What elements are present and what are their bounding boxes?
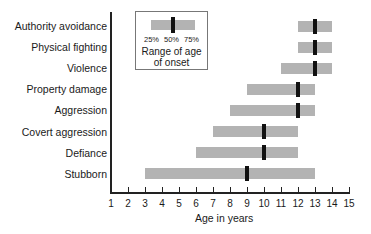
x-tick <box>196 187 197 193</box>
median-marker <box>296 82 300 97</box>
y-axis-line <box>110 12 112 193</box>
category-label: Covert aggression <box>22 126 107 138</box>
x-tick-label: 7 <box>205 198 221 209</box>
median-marker <box>245 166 249 181</box>
x-tick <box>128 187 129 193</box>
legend: 25% 50% 75% Range of age of onset <box>135 11 208 70</box>
median-marker <box>296 103 300 118</box>
x-tick-label: 2 <box>120 198 136 209</box>
median-marker <box>313 40 317 55</box>
range-bar <box>196 147 298 158</box>
x-tick-label: 11 <box>273 198 289 209</box>
x-tick-label: 10 <box>256 198 272 209</box>
x-tick <box>332 187 333 193</box>
category-label: Violence <box>67 62 107 74</box>
x-tick <box>230 187 231 193</box>
legend-median-marker <box>171 17 175 33</box>
x-tick <box>145 187 146 193</box>
legend-p50: 50% <box>164 35 179 44</box>
x-tick-label: 3 <box>137 198 153 209</box>
range-bar <box>247 84 315 95</box>
range-bar <box>145 168 315 179</box>
x-tick-label: 5 <box>171 198 187 209</box>
median-marker <box>262 145 266 160</box>
legend-percentiles: 25% 50% 75% <box>136 35 207 44</box>
age-of-onset-chart: Authority avoidancePhysical fightingViol… <box>0 0 371 234</box>
x-tick-label: 4 <box>154 198 170 209</box>
x-tick <box>298 187 299 193</box>
x-tick <box>213 187 214 193</box>
x-tick <box>349 187 350 193</box>
x-tick <box>264 187 265 193</box>
category-label: Physical fighting <box>31 41 107 53</box>
category-label: Defiance <box>66 147 107 159</box>
median-marker <box>313 61 317 76</box>
x-tick <box>111 187 112 193</box>
range-bar <box>213 126 298 137</box>
x-axis-label: Age in years <box>195 212 253 224</box>
median-marker <box>313 19 317 34</box>
x-tick-label: 1 <box>103 198 119 209</box>
x-tick-label: 6 <box>188 198 204 209</box>
legend-caption: Range of age of onset <box>136 46 207 68</box>
x-tick-label: 14 <box>324 198 340 209</box>
x-tick <box>281 187 282 193</box>
legend-caption-line2: of onset <box>136 57 207 68</box>
legend-p75: 75% <box>184 35 199 44</box>
category-label: Property damage <box>26 83 107 95</box>
range-bar <box>230 105 315 116</box>
x-tick <box>315 187 316 193</box>
x-tick-label: 15 <box>341 198 357 209</box>
x-tick-label: 12 <box>290 198 306 209</box>
x-tick <box>162 187 163 193</box>
range-bar <box>281 63 332 74</box>
x-tick-label: 13 <box>307 198 323 209</box>
x-tick <box>179 187 180 193</box>
x-tick-label: 9 <box>239 198 255 209</box>
legend-p25: 25% <box>144 35 159 44</box>
category-label: Authority avoidance <box>15 20 107 32</box>
legend-caption-line1: Range of age <box>136 46 207 57</box>
x-tick <box>247 187 248 193</box>
median-marker <box>262 124 266 139</box>
x-tick-label: 8 <box>222 198 238 209</box>
category-label: Aggression <box>54 104 107 116</box>
category-label: Stubborn <box>64 168 107 180</box>
